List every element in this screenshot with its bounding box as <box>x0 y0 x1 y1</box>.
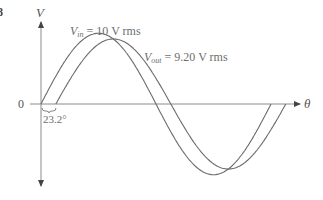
vout-label: Vout = 9.20 V rms <box>144 51 228 65</box>
vout-subscript: out <box>151 56 161 65</box>
phase-label: 23.2° <box>43 114 67 125</box>
y-axis-label: V <box>36 6 44 19</box>
sine-wave-diagram <box>0 0 323 200</box>
vin-label: Vin = 10 V rms <box>70 25 141 39</box>
figure-number-fragment: 8 <box>0 6 3 18</box>
origin-label: 0 <box>18 98 24 110</box>
vin-value: = 10 V rms <box>84 24 141 38</box>
vout-value: = 9.20 V rms <box>162 50 228 64</box>
x-axis-label: θ <box>304 97 310 110</box>
